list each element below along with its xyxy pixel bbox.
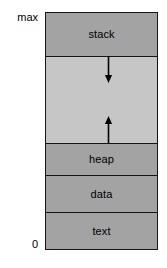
memory-segment-text: text (46, 212, 157, 249)
memory-box: stack heap data text (45, 12, 158, 250)
segment-label-data: data (91, 188, 113, 201)
memory-layout-diagram: max stack heap data text (0, 0, 167, 268)
address-zero-label: 0 (6, 238, 38, 251)
memory-segment-heap: heap (46, 143, 157, 175)
address-max-label: max (6, 11, 38, 24)
memory-segment-data: data (46, 175, 157, 212)
memory-segment-free-space (46, 56, 157, 143)
arrow-down-icon (104, 56, 113, 84)
segment-label-text: text (92, 225, 110, 238)
arrow-up-icon (104, 115, 113, 143)
memory-segment-stack: stack (46, 13, 157, 56)
segment-label-heap: heap (89, 153, 114, 166)
segment-label-stack: stack (88, 28, 114, 41)
